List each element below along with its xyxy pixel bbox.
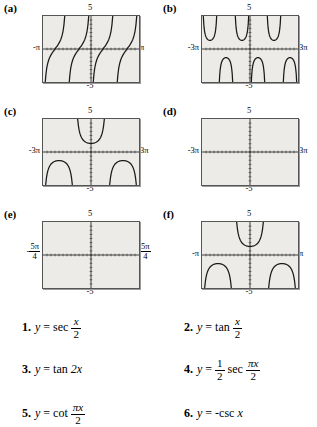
equation-item-1: 1.y = sec x2 [22, 316, 81, 340]
panel-c-plot [42, 118, 140, 186]
panel-b-curves [202, 16, 298, 82]
equation-4-equals: = [205, 362, 212, 376]
graph-panel-f: (f) 5 -5 -π π [159, 206, 317, 306]
equation-list: 1.y = sec x2 2.y = tan x2 3.y = tan 2x 4… [0, 310, 317, 427]
panel-b-plot [201, 15, 299, 83]
equation-5-arg-denominator: 2 [71, 415, 85, 427]
panel-d-top-label: 5 [201, 105, 297, 115]
graph-panel-grid: (a) 5 -5 -π π (b) 5 -5 -3π 3π (c) 5 -5 -… [0, 0, 317, 310]
graph-panel-b: (b) 5 -5 -3π 3π [159, 0, 317, 100]
panel-a-left-label: -π [0, 42, 40, 52]
equation-item-2: 2.y = tan x2 [184, 316, 242, 340]
panel-e-left-label: -5π4 [0, 242, 40, 260]
equation-3-func: tan [53, 362, 68, 376]
equation-6-lhs: y [197, 406, 202, 420]
equation-6-number: 6. [184, 406, 193, 420]
panel-f-curves [202, 222, 298, 288]
panel-c-left-label: -3π [0, 145, 40, 155]
panel-letter-b: (b) [163, 2, 176, 14]
equation-4-func: sec [228, 362, 243, 376]
panel-f-plot [201, 221, 299, 289]
equation-6-equals: = [205, 406, 212, 420]
panel-d-left-label: -3π [159, 145, 199, 155]
equation-5-func: cot [53, 406, 68, 420]
graph-panel-c: (c) 5 -5 -3π 3π [0, 103, 158, 203]
panel-d-right-label: 3π [299, 145, 317, 155]
panel-letter-c: (c) [4, 105, 16, 117]
equation-2-func: tan [215, 320, 230, 334]
graph-panel-d: (d) 5 -5 -3π 3π [159, 103, 317, 203]
equation-2-lhs: y [197, 320, 202, 334]
panel-e-curves [43, 222, 139, 288]
equation-4-arg-numerator: πx [246, 358, 260, 371]
graph-panel-e: (e) 5 -5 -5π4 5π4 [0, 206, 158, 306]
equation-4-lhs: y [197, 362, 202, 376]
panel-a-top-label: 5 [42, 2, 138, 12]
equation-1-func: sec [53, 320, 68, 334]
equation-2-arg-numerator: x [233, 316, 243, 329]
equation-3-equals: = [43, 362, 50, 376]
panel-b-right-label: 3π [299, 42, 317, 52]
panel-f-left-label: -π [159, 248, 199, 258]
equation-1-arg-denominator: 2 [71, 329, 81, 341]
equation-1-number: 1. [22, 320, 31, 334]
equation-2-equals: = [205, 320, 212, 334]
panel-f-right-label: π [299, 248, 317, 258]
panel-letter-f: (f) [163, 208, 174, 220]
equation-item-5: 5.y = cot πx2 [22, 402, 85, 426]
equation-4-coefficient: 12 [215, 358, 225, 382]
equation-5-equals: = [43, 406, 50, 420]
panel-letter-d: (d) [163, 105, 176, 117]
panel-c-top-label: 5 [42, 105, 138, 115]
equation-item-3: 3.y = tan 2x [22, 362, 82, 377]
equation-item-4: 4.y = 12 sec πx2 [184, 358, 260, 382]
equation-5-argument: πx2 [71, 402, 85, 426]
equation-4-arg-denominator: 2 [246, 371, 260, 383]
equation-4-argument: πx2 [246, 358, 260, 382]
equation-1-lhs: y [35, 320, 40, 334]
equation-4-coef-denominator: 2 [215, 371, 225, 383]
equation-4-number: 4. [184, 362, 193, 376]
equation-4-coef-numerator: 1 [215, 358, 225, 371]
equation-1-argument: x2 [71, 316, 81, 340]
panel-c-curves [43, 119, 139, 185]
equation-3-argument: 2x [71, 362, 82, 376]
panel-e-left-denominator: 4 [29, 252, 40, 261]
equation-3-lhs: y [35, 362, 40, 376]
panel-a-plot [42, 15, 140, 83]
equation-5-lhs: y [35, 406, 40, 420]
equation-item-6: 6.y = -csc x [184, 406, 243, 421]
equation-6-func: csc [219, 406, 234, 420]
equation-2-number: 2. [184, 320, 193, 334]
graph-panel-a: (a) 5 -5 -π π [0, 0, 158, 100]
panel-letter-a: (a) [4, 2, 17, 14]
equation-3-number: 3. [22, 362, 31, 376]
panel-b-left-label: -3π [159, 42, 199, 52]
panel-e-right-denominator: 4 [140, 252, 151, 261]
equation-1-equals: = [43, 320, 50, 334]
panel-d-curves [202, 119, 298, 185]
equation-1-arg-numerator: x [71, 316, 81, 329]
panel-a-curves [43, 16, 139, 82]
panel-e-top-label: 5 [42, 208, 138, 218]
panel-b-top-label: 5 [201, 2, 297, 12]
panel-letter-e: (e) [4, 208, 16, 220]
panel-f-top-label: 5 [201, 208, 297, 218]
equation-5-number: 5. [22, 406, 31, 420]
equation-2-argument: x2 [233, 316, 243, 340]
equation-6-argument: x [237, 406, 242, 420]
equation-5-arg-numerator: πx [71, 402, 85, 415]
equation-2-arg-denominator: 2 [233, 329, 243, 341]
panel-e-plot [42, 221, 140, 289]
panel-d-plot [201, 118, 299, 186]
